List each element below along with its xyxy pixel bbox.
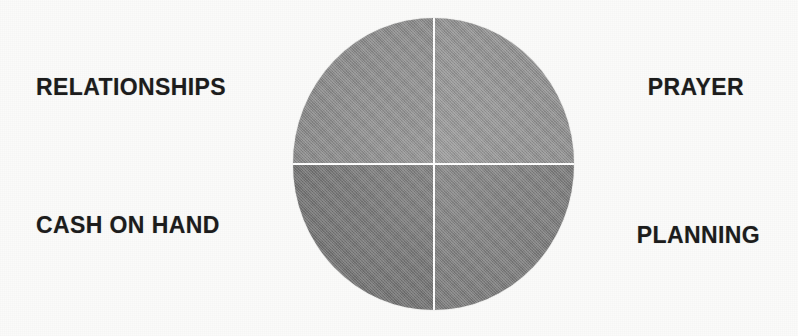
quadrant-label-relationships: RELATIONSHIPS [36,76,226,99]
quadrant-label-planning: PLANNING [637,224,760,247]
quadrant-label-cash-on-hand: CASH ON HAND [36,214,220,237]
diagram-canvas: RELATIONSHIPS PRAYER CASH ON HAND PLANNI… [0,0,798,336]
quadrant-bottom-left[interactable] [293,164,434,310]
quadrant-label-prayer: PRAYER [648,76,744,99]
quadrant-bottom-right[interactable] [434,164,575,310]
quadrant-top-right[interactable] [434,18,575,164]
quadrant-top-left[interactable] [293,18,434,164]
quadrant-circle [293,18,574,310]
horizontal-divider [293,163,574,165]
